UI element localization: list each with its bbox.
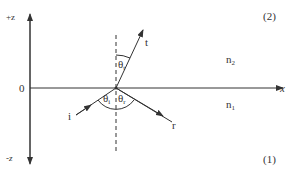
incident-ray-label: i	[68, 110, 71, 122]
z-positive-label: +z	[6, 12, 15, 22]
transmission-angle-label: θt	[118, 58, 125, 72]
incident-ray-arrow	[76, 105, 91, 115]
transmitted-ray-label: t	[145, 36, 148, 48]
reflected-ray-label: r	[172, 119, 176, 131]
lower-medium-index-label: n1	[226, 98, 236, 112]
incidence-angle-label: θi	[103, 92, 110, 106]
origin-label: 0	[19, 82, 25, 94]
upper-medium-region-label: (2)	[263, 10, 276, 23]
refraction-diagram: +z -z x 0 t i r θt θi θr (2) n2 n1 (1)	[0, 0, 289, 174]
reflection-angle-label: θr	[118, 92, 126, 106]
z-negative-label: -z	[6, 153, 13, 163]
x-axis-label: x	[279, 82, 285, 94]
lower-medium-region-label: (1)	[263, 153, 276, 166]
origin-point	[115, 87, 118, 90]
upper-medium-index-label: n2	[226, 53, 236, 67]
